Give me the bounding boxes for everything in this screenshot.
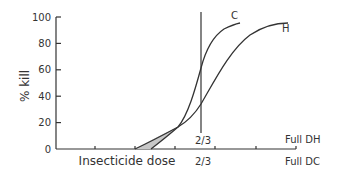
- y-ticks: [56, 17, 61, 123]
- curve-c: [151, 23, 240, 149]
- fraction-dc-label: 2/3: [195, 156, 211, 167]
- y-tick-labels: 100 80 60 40 20 0: [32, 12, 51, 155]
- dose-response-chart: 100 80 60 40 20 0 % kill Insecticide dos…: [0, 0, 339, 176]
- curve-h-label: H: [282, 23, 290, 34]
- y-axis-title: % kill: [18, 70, 32, 102]
- fraction-dh-label: 2/3: [195, 135, 211, 146]
- full-dc-label: Full DC: [285, 156, 320, 167]
- y-tick-0: 0: [45, 144, 51, 155]
- y-tick-100: 100: [32, 12, 51, 23]
- y-tick-20: 20: [38, 117, 51, 128]
- curve-c-label: C: [231, 10, 238, 21]
- y-tick-40: 40: [38, 91, 51, 102]
- x-axis-title: Insecticide dose: [79, 154, 176, 168]
- y-tick-60: 60: [38, 64, 51, 75]
- y-tick-80: 80: [38, 38, 51, 49]
- full-dh-label: Full DH: [285, 134, 321, 145]
